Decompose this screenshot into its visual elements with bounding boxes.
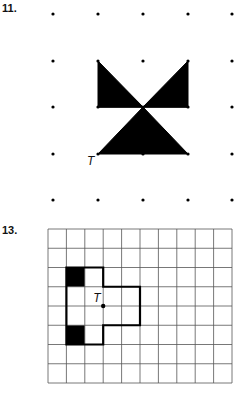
point-t xyxy=(101,304,105,308)
grid-dot xyxy=(230,59,233,62)
grid-dot xyxy=(186,198,189,201)
lower-triangle xyxy=(98,107,188,154)
grid-dot xyxy=(230,198,233,201)
grid-dot xyxy=(230,152,233,155)
grid-dot xyxy=(186,59,189,62)
grid-dot xyxy=(96,152,99,155)
grid-dot xyxy=(186,12,189,15)
grid-dot xyxy=(141,198,144,201)
grid-dot xyxy=(51,105,54,108)
upper-right-triangle xyxy=(143,61,188,107)
shaded-cell xyxy=(66,325,84,344)
grid-dot xyxy=(51,198,54,201)
grid-dot xyxy=(186,105,189,108)
shaded-cell xyxy=(66,268,84,287)
grid-dot xyxy=(186,152,189,155)
figures-canvas: TT xyxy=(0,0,247,404)
grid-dot xyxy=(96,12,99,15)
grid-dot xyxy=(51,12,54,15)
grid-dot xyxy=(141,105,144,108)
grid-dot xyxy=(51,59,54,62)
grid-dot xyxy=(96,198,99,201)
point-t-label: T xyxy=(93,291,102,305)
grid-dot xyxy=(141,59,144,62)
grid-dot xyxy=(230,12,233,15)
grid-dot xyxy=(141,152,144,155)
point-t-label: T xyxy=(87,154,96,168)
grid-dot xyxy=(96,105,99,108)
grid-dot xyxy=(141,12,144,15)
grid-dot xyxy=(51,152,54,155)
grid-dot xyxy=(230,105,233,108)
grid-dot xyxy=(96,59,99,62)
upper-left-triangle xyxy=(98,61,143,107)
